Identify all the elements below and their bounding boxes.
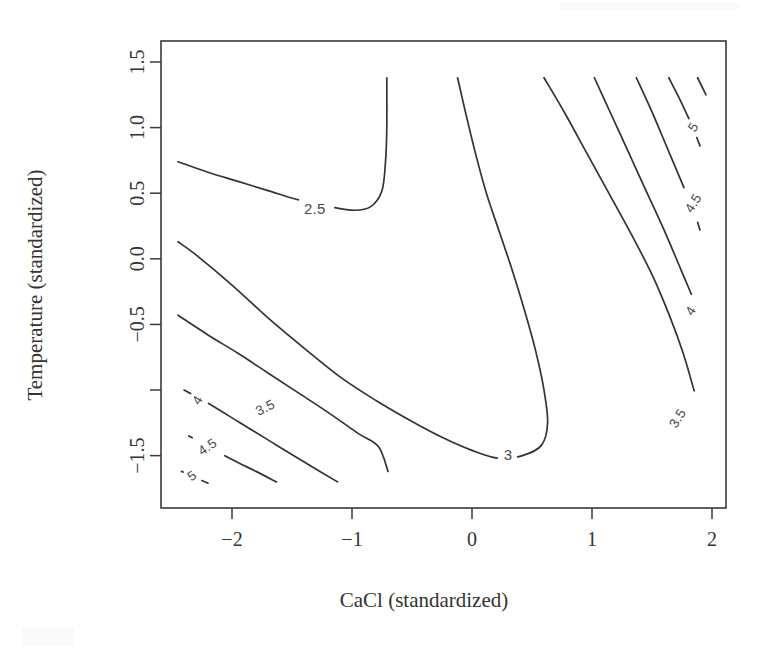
y-axis-tick-labels: 1.51.00.50.0−0.5−1.5: [126, 50, 148, 474]
contour-label-4-3: 4: [189, 393, 206, 408]
contour-plot-figure: 2.533.544.553.544.55 −2−1012 1.51.00.50.…: [0, 0, 765, 652]
contour-label-5-5: 5: [184, 467, 199, 484]
x-axis-tick-labels: −2−1012: [221, 528, 717, 550]
x-tick-label-1: −1: [341, 528, 362, 550]
y-axis-title: Temperature (standardized): [23, 169, 47, 400]
contour-label-3-5-6: 3.5: [666, 406, 689, 430]
contour-label-4-5-4: 4.5: [195, 435, 219, 458]
contour-line-5-9: [669, 78, 700, 146]
x-tick-label-2: 0: [467, 528, 477, 550]
contour-label-5-9: 5: [685, 120, 702, 134]
contour-line-3-5-6: [544, 78, 700, 409]
contour-line-5-10: [698, 78, 706, 95]
contour-label-3-5-2: 3.5: [253, 396, 277, 418]
contour-label-3-1: 3: [504, 446, 513, 463]
x-axis-title: CaCl (standardized): [340, 588, 509, 612]
x-tick-label-4: 2: [707, 528, 717, 550]
y-tick-label-0: 1.5: [126, 50, 148, 75]
contour-label-4-5-8: 4.5: [682, 191, 705, 215]
y-tick-label-1: 1.0: [126, 115, 148, 140]
y-tick-label-4: −0.5: [126, 306, 148, 342]
contour-labels: 2.533.544.553.544.55: [184, 120, 704, 484]
contour-lines: [178, 78, 706, 483]
x-tick-label-0: −2: [221, 528, 242, 550]
y-axis-ticks: [150, 62, 161, 456]
y-tick-label-6: −1.5: [126, 437, 148, 473]
x-tick-label-3: 1: [587, 528, 597, 550]
contour-line-3-1: [178, 78, 548, 459]
plot-canvas: 2.533.544.553.544.55 −2−1012 1.51.00.50.…: [0, 0, 765, 652]
contour-label-4-7: 4: [682, 303, 699, 318]
y-tick-label-3: 0.0: [126, 246, 148, 271]
contour-line-2-5-0: [178, 78, 387, 211]
y-tick-label-2: 0.5: [126, 181, 148, 206]
contour-label-2-5-0: 2.5: [304, 200, 325, 217]
contour-line-4-7: [594, 78, 695, 304]
x-axis-ticks: [232, 508, 712, 519]
